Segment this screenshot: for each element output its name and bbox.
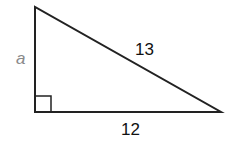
side-label-base: 12	[121, 120, 140, 139]
right-angle-marker	[35, 96, 51, 112]
triangle-outline	[35, 7, 221, 112]
side-label-hypotenuse: 13	[135, 40, 154, 59]
right-triangle-diagram: a 13 12	[0, 0, 240, 142]
side-label-a: a	[16, 49, 25, 68]
